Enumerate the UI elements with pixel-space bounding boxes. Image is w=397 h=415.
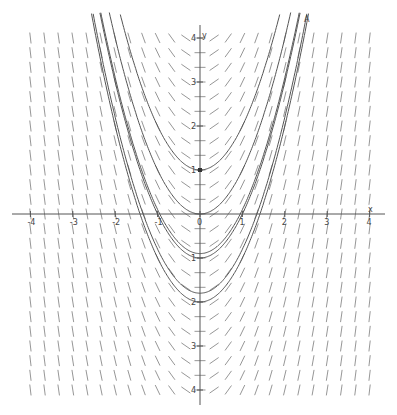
- slope-segment: [100, 370, 102, 381]
- point-a-label: A: [304, 15, 310, 24]
- slope-segment: [100, 297, 102, 308]
- slope-segment: [298, 91, 300, 102]
- slope-segment: [169, 78, 175, 87]
- slope-segment: [30, 135, 31, 146]
- slope-segment: [58, 106, 60, 117]
- slope-segment: [86, 223, 88, 234]
- slope-segment: [326, 341, 328, 352]
- slope-segment: [128, 77, 131, 88]
- slope-segment: [155, 385, 160, 395]
- slope-segment: [44, 62, 45, 73]
- slope-segment: [86, 106, 88, 117]
- slope-segment: [210, 240, 219, 246]
- slope-segment: [169, 386, 175, 395]
- slope-segment: [326, 238, 328, 249]
- slope-segment: [210, 138, 219, 144]
- slope-segment: [284, 179, 287, 190]
- slope-segment: [326, 121, 328, 132]
- slope-segment: [255, 48, 259, 58]
- slope-segment: [169, 48, 175, 57]
- slope-segment: [225, 254, 231, 263]
- slope-segment: [326, 194, 328, 205]
- axes: [12, 25, 385, 405]
- slope-segment: [341, 311, 343, 322]
- slope-segment: [114, 165, 117, 176]
- slope-segment: [284, 150, 287, 161]
- slope-segment: [255, 77, 259, 87]
- slope-segment: [44, 326, 45, 337]
- slope-segment: [44, 282, 45, 293]
- slope-segment: [298, 150, 300, 161]
- slope-segment: [284, 267, 287, 278]
- slope-segment: [86, 297, 88, 308]
- slope-segment: [284, 165, 287, 176]
- slope-segment: [181, 35, 190, 41]
- slope-segment: [142, 106, 146, 116]
- slope-segment: [142, 267, 146, 277]
- slope-segment: [100, 135, 102, 146]
- slope-segment: [240, 150, 245, 160]
- slope-segment: [369, 91, 370, 102]
- slope-segment: [142, 33, 146, 43]
- slope-segment: [72, 326, 74, 337]
- slope-segment: [72, 150, 74, 161]
- slope-segment: [240, 180, 245, 190]
- slope-segment: [255, 385, 259, 395]
- slope-segment: [298, 179, 300, 190]
- slope-segment: [44, 238, 45, 249]
- slope-segment: [44, 121, 45, 132]
- slope-segment: [284, 253, 287, 264]
- slope-segment: [114, 179, 117, 190]
- slope-segment: [210, 108, 219, 114]
- slope-segment: [312, 223, 314, 234]
- x-tick-label: -1: [155, 218, 163, 227]
- slope-segment: [128, 326, 131, 337]
- slope-segment: [72, 77, 74, 88]
- slope-segment: [341, 150, 343, 161]
- slope-segment: [181, 64, 190, 70]
- slope-segment: [355, 165, 356, 176]
- slope-segment: [312, 297, 314, 308]
- slope-segment: [58, 135, 60, 146]
- slope-segment: [240, 48, 245, 58]
- slope-segment: [72, 106, 74, 117]
- slope-segment: [341, 106, 343, 117]
- slope-segment: [155, 341, 160, 351]
- slope-segment: [210, 387, 219, 393]
- slope-segment: [225, 283, 231, 292]
- slope-segment: [155, 48, 160, 58]
- y-tick-label: 2: [191, 298, 196, 307]
- slope-segment: [326, 311, 328, 322]
- slope-segment: [298, 355, 300, 366]
- slope-segment: [169, 371, 175, 380]
- slope-segment: [58, 150, 60, 161]
- slope-segment: [284, 297, 287, 308]
- slope-segment: [341, 267, 343, 278]
- slope-segment: [169, 342, 175, 351]
- slope-segment: [86, 135, 88, 146]
- slope-segment: [210, 299, 219, 305]
- slope-segment: [326, 267, 328, 278]
- slope-segment: [58, 326, 60, 337]
- slope-segment: [225, 224, 231, 233]
- slope-segment: [114, 150, 117, 161]
- slope-segment: [100, 33, 102, 44]
- slope-segment: [240, 238, 245, 248]
- slope-segment: [225, 386, 231, 395]
- slope-segment: [58, 179, 60, 190]
- slope-segment: [240, 77, 245, 87]
- slope-segment: [169, 34, 175, 43]
- slope-segment: [181, 358, 190, 364]
- slope-segment: [100, 282, 102, 293]
- slope-segment: [181, 196, 190, 202]
- slope-segment: [326, 91, 328, 102]
- slope-segment: [269, 355, 272, 366]
- slope-segment: [355, 267, 356, 278]
- slope-segment: [341, 385, 343, 396]
- y-axis-label: y: [202, 31, 207, 40]
- slope-segment: [30, 62, 31, 73]
- slope-segment: [255, 150, 259, 160]
- slope-segment: [100, 238, 102, 249]
- slope-segment: [181, 123, 190, 129]
- slope-segment: [72, 135, 74, 146]
